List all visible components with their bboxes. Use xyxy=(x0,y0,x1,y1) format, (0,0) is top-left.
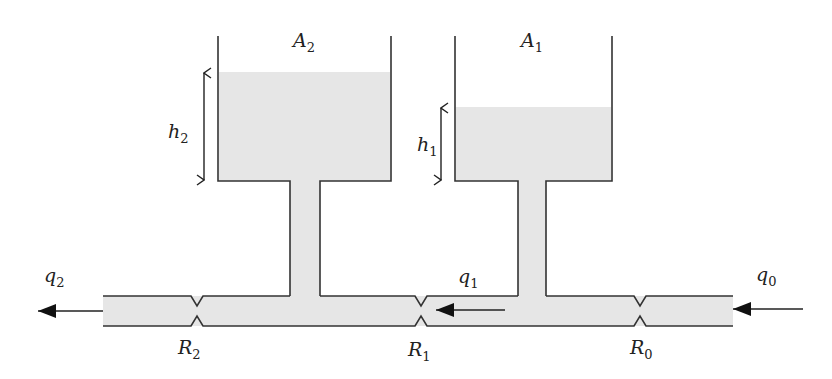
h1-label: h1 xyxy=(417,133,438,159)
tank-2-area-label: A2 xyxy=(291,29,315,55)
fluid-regions xyxy=(103,72,733,326)
q0-label: q0 xyxy=(756,263,776,289)
R1-valve-label: R1 xyxy=(407,338,431,364)
h2-label: h2 xyxy=(168,120,189,146)
tank-1-fluid xyxy=(456,107,611,181)
hydraulic-diagram: A2 A1 h2 h1 q2 q1 q0 R2 R1 R0 xyxy=(0,0,832,379)
q1-label: q1 xyxy=(458,265,478,291)
tank-1-stem-fluid xyxy=(518,180,546,298)
q2-label: q2 xyxy=(44,264,64,290)
tank-2-stem-fluid xyxy=(290,180,320,298)
tank-2-fluid xyxy=(219,72,390,181)
tank-1-area-label: A1 xyxy=(519,29,543,55)
R0-valve-label: R0 xyxy=(629,336,653,362)
R2-valve-label: R2 xyxy=(177,336,201,362)
